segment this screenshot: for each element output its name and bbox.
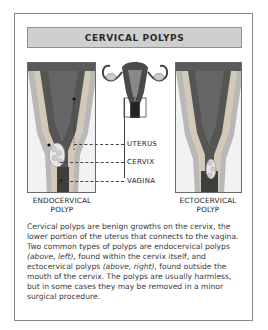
figure-title: CERVICAL POLYPS [85,33,185,43]
description-paragraph: Cervical polyps are benign growths on th… [27,222,245,302]
leader-vertical-line [124,98,125,178]
caption-endocervical-line2: POLYP [20,205,104,214]
endocervical-drawing [28,63,96,193]
body-text-emphasis-left: (above, left), [27,252,76,261]
uterus-overview-drawing [98,58,172,118]
endocervical-illustration [27,62,96,193]
uterus-overview-diagram [98,58,172,118]
body-text-part1: Cervical polyps are benign growths on th… [27,222,238,251]
label-uterus: UTERUS [127,140,157,148]
ectocervical-drawing [176,63,242,193]
caption-endocervical-line1: ENDOCERVICAL [20,196,104,205]
vagina-leader-line [60,181,124,182]
label-cervix: CERVIX [127,158,154,166]
ectocervical-illustration [175,62,242,193]
body-text-emphasis-right: (above, right), [103,262,157,271]
caption-ectocervical: ECTOCERVICAL POLYP [166,196,250,214]
label-vagina: VAGINA [127,177,155,185]
caption-endocervical: ENDOCERVICAL POLYP [20,196,104,214]
title-bar: CERVICAL POLYPS [27,27,242,48]
uterus-leader-line [74,144,124,145]
caption-ectocervical-line1: ECTOCERVICAL [166,196,250,205]
caption-ectocervical-line2: POLYP [166,205,250,214]
cervix-leader-line [60,162,124,163]
